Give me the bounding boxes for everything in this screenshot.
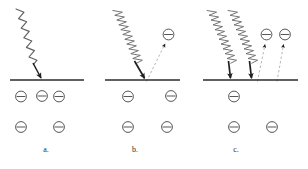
bound-electron bbox=[54, 91, 65, 102]
incident-light-wave-c-1 bbox=[207, 11, 237, 64]
ejected-electron-trajectory-c-1 bbox=[258, 45, 266, 82]
panel-a bbox=[10, 9, 84, 132]
bound-electron bbox=[54, 122, 65, 133]
impact-arrow-b bbox=[135, 61, 145, 78]
incident-light-wave-a bbox=[16, 9, 37, 65]
bound-electron bbox=[37, 91, 48, 102]
ejected-electron-trajectory-c-2 bbox=[277, 45, 284, 82]
panel-label-a: a. bbox=[36, 145, 56, 154]
incident-light-wave-b bbox=[113, 11, 143, 64]
panel-label-b: b. bbox=[125, 145, 145, 154]
bound-electron bbox=[229, 122, 240, 133]
bound-electron bbox=[267, 122, 278, 133]
bound-electron bbox=[123, 122, 134, 133]
ejected-electron-trajectory-b bbox=[147, 44, 166, 82]
ejected-electron bbox=[163, 29, 174, 40]
photoelectric-effect-figure bbox=[0, 0, 308, 169]
bound-electron bbox=[16, 122, 27, 133]
impact-arrow-a bbox=[33, 63, 41, 78]
impact-arrow-c-1 bbox=[229, 61, 231, 78]
bound-electron bbox=[16, 91, 27, 102]
panel-b bbox=[105, 11, 180, 133]
bound-electron bbox=[162, 122, 173, 133]
ejected-electron bbox=[261, 29, 272, 40]
bound-electron bbox=[229, 91, 240, 102]
bound-electron bbox=[166, 91, 177, 102]
bound-electron bbox=[123, 91, 134, 102]
panel-label-c: c. bbox=[226, 145, 246, 154]
panel-c bbox=[203, 11, 298, 133]
impact-arrow-c-2 bbox=[250, 61, 252, 78]
ejected-electron bbox=[280, 29, 291, 40]
